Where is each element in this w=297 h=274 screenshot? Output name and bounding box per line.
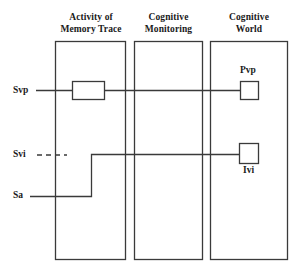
signal-label-sa: Sa xyxy=(13,190,23,201)
diagram-graphics xyxy=(0,0,297,274)
column-box-cognitive-monitoring xyxy=(135,42,203,260)
column-header-line2: Memory Trace xyxy=(49,24,133,36)
column-header-line2: Monitoring xyxy=(128,24,209,36)
column-header-line1: Cognitive xyxy=(209,12,289,24)
node-memory-trace-box xyxy=(73,82,105,100)
diagram-canvas: Activity of Memory Trace Cognitive Monit… xyxy=(0,0,297,274)
column-header-cognitive-world: Cognitive World xyxy=(209,12,289,35)
node-label-ivi: Ivi xyxy=(243,165,254,176)
node-pvp-box xyxy=(241,82,259,100)
signal-label-svp: Svp xyxy=(13,85,28,96)
node-ivi-box xyxy=(240,144,259,164)
column-box-activity-of-memory-trace xyxy=(56,42,126,260)
signal-label-svi: Svi xyxy=(13,149,26,160)
node-label-pvp: Pvp xyxy=(240,65,256,76)
column-header-cognitive-monitoring: Cognitive Monitoring xyxy=(128,12,209,35)
column-header-line2: World xyxy=(209,24,289,36)
column-header-activity-of-memory-trace: Activity of Memory Trace xyxy=(49,12,133,35)
column-header-line1: Activity of xyxy=(49,12,133,24)
column-header-line1: Cognitive xyxy=(128,12,209,24)
